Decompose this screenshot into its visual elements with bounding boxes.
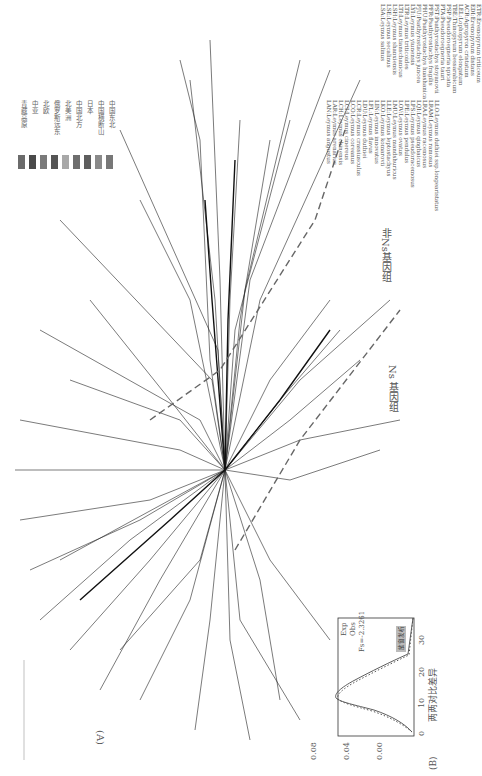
x-axis-label: 两两对比差异 xyxy=(427,668,438,722)
legend-label: 俄罗斯远东 xyxy=(51,100,61,135)
legend-label: 日本 xyxy=(84,100,94,114)
legend-swatch xyxy=(29,155,36,169)
legend-label: 中国横断山 xyxy=(95,100,105,135)
y-tick-008: 0.08 xyxy=(309,742,318,760)
legend-swatch xyxy=(18,155,25,169)
legend-swatch xyxy=(40,155,47,169)
legend-exp: Exp xyxy=(340,622,348,636)
legend-label: 青藏高原 xyxy=(18,100,28,128)
annotation-box-label: 放窗发析 xyxy=(397,626,405,650)
species-entry: ETR:Eremopyrum triticeum xyxy=(476,4,482,83)
legend-swatch xyxy=(95,155,102,169)
species-entry: LLO:Leymus duthiei ssp.longearistatus xyxy=(434,100,440,211)
legend-swatch xyxy=(84,155,91,169)
ns-genome-label: Ns 基因组 xyxy=(385,365,400,412)
legend-label: 中国东北 xyxy=(106,100,116,128)
non-ns-genome-label: 非Ns基因组 xyxy=(378,228,393,282)
region-legend: 青藏高原 中亚 北欧 俄罗斯远东 北美洲 中国北方 日本 中国横断山 中国东北 xyxy=(18,100,113,166)
legend-label: 北欧 xyxy=(40,100,50,114)
legend-swatch xyxy=(106,155,113,169)
x-tick-10: 10 xyxy=(417,698,426,708)
x-tick-30: 30 xyxy=(417,635,426,645)
legend-swatch xyxy=(51,155,58,169)
fs-statistic: Fs=-2.3261 xyxy=(358,612,366,652)
mismatch-distribution-chart: 0.08 0.04 0.00 0 10 20 30 Exp Obs Fs=-2.… xyxy=(300,612,439,776)
legend-label: 中亚 xyxy=(29,100,39,114)
y-tick-004: 0.04 xyxy=(342,742,351,760)
panel-a-label: (A) xyxy=(95,730,106,745)
panel-b-label: (B) xyxy=(428,756,438,770)
legend-swatch xyxy=(73,155,80,169)
legend-label: 北美洲 xyxy=(62,100,72,121)
species-column-1: LAN:Leymus angustus LAR:Leymus arenarius… xyxy=(300,100,439,270)
x-tick-0: 0 xyxy=(417,731,426,736)
legend-label: 中国北方 xyxy=(73,100,83,128)
x-tick-20: 20 xyxy=(417,667,426,677)
y-tick-000: 0.00 xyxy=(375,742,384,760)
legend-obs: Obs xyxy=(349,622,357,636)
legend-swatch xyxy=(62,155,69,169)
